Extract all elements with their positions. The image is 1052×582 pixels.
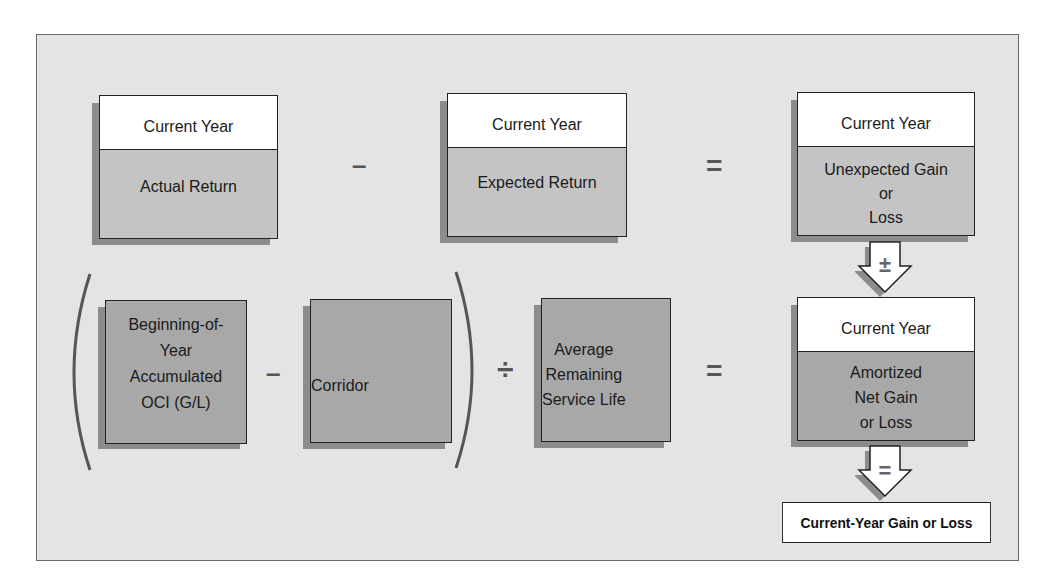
down-arrow-icon: ± [855,240,917,298]
label-line: or [879,182,893,206]
expected-return-box: Current Year Expected Return [447,93,627,237]
equals-icon: = [879,458,892,483]
box-label: Actual Return [100,150,277,238]
right-parenthesis-icon [450,268,490,474]
box-label: Unexpected Gain or Loss [798,147,974,235]
minus-operator: – [352,150,366,181]
minus-operator: – [266,358,280,389]
label-line: Accumulated [130,364,223,390]
label-line: Net Gain [854,385,917,410]
current-year-gain-loss-result: Current-Year Gain or Loss [782,502,991,543]
equals-operator: = [706,150,722,182]
plus-minus-icon: ± [879,252,891,277]
box-header: Current Year [798,93,974,147]
unexpected-gain-loss-box: Current Year Unexpected Gain or Loss [797,92,975,236]
divide-operator: ÷ [497,352,513,386]
label-line: Unexpected Gain [824,158,948,182]
box-label: Amortized Net Gain or Loss [798,352,974,440]
label-line: Amortized [850,360,922,385]
corridor-box: Corridor [310,299,452,443]
label-line: Year [160,338,192,364]
label-line: Service Life [542,387,626,412]
left-parenthesis-icon [58,270,98,476]
beginning-accumulated-oci-box: Beginning-of- Year Accumulated OCI (G/L) [105,300,247,444]
actual-return-box: Current Year Actual Return [99,95,278,239]
down-arrow-icon: = [855,444,917,502]
average-remaining-service-life-box: Average Remaining Service Life [541,298,671,442]
label-line: Average [554,337,613,362]
box-header: Current Year [798,298,974,352]
box-label: Corridor [311,373,369,398]
label-line: Beginning-of- [128,312,223,338]
label-line: OCI (G/L) [141,390,210,416]
amortized-net-gain-loss-box: Current Year Amortized Net Gain or Loss [797,297,975,441]
label-line: Remaining [546,362,622,387]
label-line: or Loss [860,410,912,435]
result-label: Current-Year Gain or Loss [801,514,973,531]
label-line: Loss [869,206,903,230]
box-label: Expected Return [448,148,626,236]
equals-operator: = [706,355,722,387]
box-header: Current Year [448,94,626,148]
box-header: Current Year [100,96,277,150]
